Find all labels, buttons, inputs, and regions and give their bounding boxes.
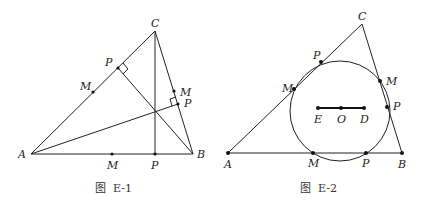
label-m: M [307,157,320,170]
label-b: B [196,148,205,161]
foot-point [176,102,179,105]
triangle-abc [31,31,193,154]
label-d: D [359,113,369,126]
foot-point [364,151,368,155]
label-m: M [106,159,119,172]
label-p: P [183,97,192,110]
label-m: M [385,75,398,88]
label-e: E [313,113,322,126]
vertex-a [226,151,230,155]
midpoint [91,90,94,93]
right-angle-mark-ac [123,63,128,74]
figure-e1: A B C P M M P M P 图 E-1 [17,17,205,195]
midpoint [110,152,113,155]
label-p: P [104,56,113,69]
label-m: M [281,82,294,95]
caption-e1: 图 E-1 [95,182,132,195]
caption-e2: 图 E-2 [300,182,337,195]
label-b: B [397,158,406,171]
geometry-canvas: A B C P M M P M P 图 E-1 A B C P M M P M … [0,0,423,206]
midpoint [172,89,175,92]
foot-point [116,66,119,69]
label-p: P [312,49,321,62]
figure-e2: A B C P M M P M P E O D 图 E-2 [223,10,406,195]
label-o: O [337,113,346,126]
nine-point-circle [290,61,390,161]
point-d [362,106,366,110]
label-a: A [223,158,232,171]
point-e [316,106,320,110]
midpoint [311,151,315,155]
vertex-b [400,151,404,155]
label-p: P [361,157,370,170]
foot-point [385,105,389,109]
label-a: A [17,148,26,161]
label-p: P [392,100,401,113]
altitude-from-a [31,104,178,154]
label-p: P [150,159,159,172]
label-m: M [79,80,92,93]
label-c: C [358,10,367,23]
point-o [339,106,343,110]
foot-point [153,152,156,155]
label-c: C [151,17,160,30]
triangle-abc [228,24,402,153]
midpoint [378,79,382,83]
